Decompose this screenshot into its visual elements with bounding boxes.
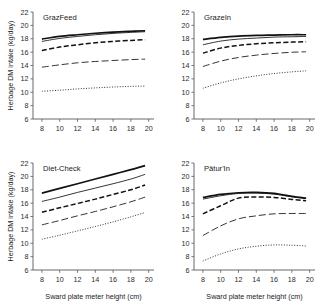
x-tick-label: 18 [288, 275, 296, 284]
y-axis-title: Herbage DM intake (kg/day) [6, 21, 15, 111]
y-tick-label: 12 [182, 74, 190, 83]
y-tick-label: 10 [182, 239, 190, 248]
series-line-series-4 [203, 52, 306, 67]
panel-title: GrazFeed [43, 13, 77, 22]
y-tick-label: 18 [21, 34, 29, 43]
y-tick-label: 18 [182, 34, 190, 43]
y-tick-label: 14 [21, 212, 29, 221]
x-tick-label: 18 [127, 124, 135, 133]
y-tick-label: 6 [25, 266, 29, 275]
x-tick-label: 8 [40, 124, 44, 133]
y-tick-label: 16 [182, 48, 190, 57]
series-line-series-2 [42, 174, 145, 201]
x-tick-label: 8 [201, 124, 205, 133]
y-tick-label: 8 [186, 101, 190, 110]
x-tick-label: 12 [234, 124, 242, 133]
y-tick-label: 14 [182, 61, 190, 70]
x-tick-label: 16 [270, 124, 278, 133]
x-tick-label: 16 [109, 124, 117, 133]
panel-title: Diet-Check [43, 164, 81, 173]
series-line-series-3 [203, 197, 306, 214]
x-tick-label: 20 [145, 124, 153, 133]
y-tick-label: 12 [21, 225, 29, 234]
panel-grazfeed: 68101214161820228101214161820GrazFeedHer… [0, 0, 160, 151]
chart-canvas: 68101214161820228101214161820GrazeIn [161, 0, 321, 151]
x-tick-label: 12 [234, 275, 242, 284]
x-axis-title: Sward plate meter height (cm) [206, 292, 302, 301]
figure-panel-grid: 68101214161820228101214161820GrazFeedHer… [0, 0, 321, 302]
chart-canvas: 68101214161820228101214161820Diet-CheckH… [0, 151, 160, 302]
panel-diet-check: 68101214161820228101214161820Diet-CheckH… [0, 151, 160, 302]
y-tick-label: 20 [21, 172, 29, 181]
y-tick-label: 20 [21, 21, 29, 30]
y-tick-label: 22 [21, 159, 29, 168]
x-tick-label: 10 [217, 275, 225, 284]
x-tick-label: 12 [73, 275, 81, 284]
x-tick-label: 8 [201, 275, 205, 284]
y-tick-label: 10 [21, 88, 29, 97]
series-line-series-5 [42, 86, 145, 91]
x-tick-label: 8 [40, 275, 44, 284]
y-tick-label: 22 [182, 159, 190, 168]
x-tick-label: 16 [109, 275, 117, 284]
y-tick-label: 18 [182, 185, 190, 194]
y-tick-label: 14 [182, 212, 190, 221]
y-tick-label: 16 [182, 199, 190, 208]
x-axis-title: Sward plate meter height (cm) [45, 292, 141, 301]
x-tick-label: 18 [127, 275, 135, 284]
y-tick-label: 8 [186, 252, 190, 261]
y-tick-label: 6 [186, 115, 190, 124]
x-tick-label: 16 [270, 275, 278, 284]
y-tick-label: 16 [21, 199, 29, 208]
x-tick-label: 10 [217, 124, 225, 133]
x-tick-label: 20 [306, 124, 314, 133]
x-tick-label: 14 [91, 124, 99, 133]
series-line-series-5 [42, 212, 145, 239]
x-tick-label: 14 [252, 275, 260, 284]
x-tick-label: 12 [73, 124, 81, 133]
x-tick-label: 18 [288, 124, 296, 133]
series-line-series-4 [42, 197, 145, 225]
chart-canvas: 68101214161820228101214161820Pâtur'InSwa… [161, 151, 321, 302]
y-tick-label: 14 [21, 61, 29, 70]
y-tick-label: 6 [25, 115, 29, 124]
y-tick-label: 20 [182, 21, 190, 30]
y-tick-label: 18 [21, 185, 29, 194]
y-tick-label: 6 [186, 266, 190, 275]
y-axis-title: Herbage DM intake (kg/day) [6, 172, 15, 262]
x-tick-label: 10 [56, 124, 64, 133]
series-line-series-3 [203, 42, 306, 53]
x-tick-label: 14 [252, 124, 260, 133]
y-tick-label: 10 [182, 88, 190, 97]
series-line-series-5 [203, 71, 306, 88]
panel-title: GrazeIn [204, 13, 231, 22]
y-tick-label: 8 [25, 252, 29, 261]
x-tick-label: 14 [91, 275, 99, 284]
panel-paturin: 68101214161820228101214161820Pâtur'InSwa… [161, 151, 321, 302]
x-tick-label: 20 [306, 275, 314, 284]
y-tick-label: 22 [182, 8, 190, 17]
y-tick-label: 12 [182, 225, 190, 234]
series-line-series-3 [42, 40, 145, 51]
y-tick-label: 8 [25, 101, 29, 110]
chart-canvas: 68101214161820228101214161820GrazFeedHer… [0, 0, 160, 151]
x-tick-label: 20 [145, 275, 153, 284]
y-tick-label: 20 [182, 172, 190, 181]
y-tick-label: 16 [21, 48, 29, 57]
panel-grazein: 68101214161820228101214161820GrazeIn [161, 0, 321, 151]
y-tick-label: 10 [21, 239, 29, 248]
series-line-series-4 [42, 59, 145, 67]
y-tick-label: 22 [21, 8, 29, 17]
series-line-series-5 [203, 245, 306, 261]
y-tick-label: 12 [21, 74, 29, 83]
series-line-series-4 [203, 213, 306, 235]
x-tick-label: 10 [56, 275, 64, 284]
panel-title: Pâtur'In [204, 164, 230, 173]
